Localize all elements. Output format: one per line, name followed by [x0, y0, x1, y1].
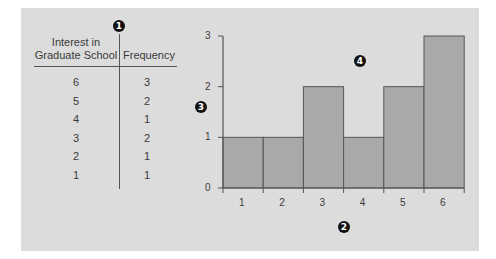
bar-3 [303, 87, 343, 188]
y-tick-label: 2 [205, 81, 211, 92]
bar-1 [223, 137, 263, 188]
bar-5 [384, 87, 424, 188]
y-tick-label: 0 [205, 182, 211, 193]
bar-2 [263, 137, 303, 188]
x-tick-label: 4 [360, 197, 366, 208]
x-tick-label: 2 [279, 197, 285, 208]
bar-6 [424, 36, 464, 188]
x-tick-label: 6 [440, 197, 446, 208]
x-tick-label: 1 [239, 197, 245, 208]
histogram-chart [0, 0, 496, 259]
bar-4 [344, 137, 384, 188]
y-tick-label: 3 [205, 30, 211, 41]
y-tick-label: 1 [205, 131, 211, 142]
x-tick-label: 3 [320, 197, 326, 208]
x-tick-label: 5 [400, 197, 406, 208]
